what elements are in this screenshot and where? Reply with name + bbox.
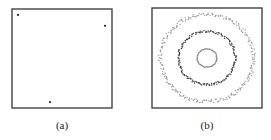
ring-point (180, 95, 181, 96)
ring-point (233, 23, 234, 24)
ring-point (252, 54, 253, 55)
panel-a-caption: (a) (42, 119, 82, 131)
ring-point (229, 41, 230, 42)
ring-point (252, 59, 253, 60)
ring-point (209, 31, 210, 32)
ring-point (176, 25, 177, 26)
ring-point (224, 36, 225, 37)
ring-point (186, 78, 187, 79)
ring-point (217, 101, 218, 102)
ring-point (166, 79, 167, 80)
ring-point (211, 99, 212, 100)
panel-a-frame (12, 9, 112, 108)
ring-point (177, 57, 178, 58)
ring-point (252, 56, 253, 57)
point-1 (17, 14, 19, 16)
ring-point (222, 15, 223, 16)
ring-point (185, 20, 186, 21)
ring-point (248, 75, 249, 76)
ring-point (178, 49, 179, 50)
ring-point (192, 33, 193, 34)
ring-point (244, 32, 245, 33)
ring-point (230, 18, 231, 19)
ring-point (181, 68, 182, 69)
ring-point (195, 32, 196, 33)
ring-point (199, 102, 200, 103)
ring-point (215, 33, 216, 34)
ring-point (164, 74, 165, 75)
figure (0, 0, 271, 140)
ring-point (175, 91, 176, 92)
ring-point (188, 16, 189, 17)
ring-point (232, 21, 233, 22)
ring-point (244, 82, 245, 83)
ring-point (253, 48, 254, 49)
ring-point (249, 72, 250, 73)
ring-point (162, 39, 163, 40)
ring-point (226, 75, 227, 76)
ring-point (216, 83, 217, 84)
ring-point (217, 81, 218, 82)
ring-point (170, 29, 171, 30)
ring-point (221, 81, 222, 82)
ring-point (253, 60, 254, 61)
ring-point (162, 47, 163, 48)
ring-point (193, 81, 194, 82)
panel-b-caption: (b) (187, 119, 227, 131)
ring-point (199, 32, 200, 33)
ring-point (222, 35, 223, 36)
point-3 (49, 101, 51, 103)
ring-point (182, 43, 183, 44)
ring-point (170, 32, 171, 33)
ring-point (166, 33, 167, 34)
ring-point (212, 14, 213, 15)
ring-point (195, 34, 196, 35)
ring-point (179, 52, 180, 53)
ring-point (229, 73, 230, 74)
ring-point (240, 89, 241, 90)
ring-point (193, 16, 194, 17)
ring-point (254, 55, 255, 56)
ring-point (212, 31, 213, 32)
ring-point (162, 71, 163, 72)
ring-point (251, 46, 252, 47)
ring-point (184, 42, 185, 43)
ring-point (166, 76, 167, 77)
ring-point (204, 15, 205, 16)
ring-point (177, 23, 178, 24)
ring-point (236, 92, 237, 93)
ring-point (243, 28, 244, 29)
ring-point (242, 85, 243, 86)
ring-point (240, 88, 241, 89)
ring-point (254, 61, 255, 62)
ring-point (235, 90, 236, 91)
ring-point (211, 66, 212, 67)
ring-point (203, 13, 204, 14)
ring-point (162, 46, 163, 47)
ring-point (192, 16, 193, 17)
ring-point (216, 57, 217, 58)
ring-point (161, 58, 162, 59)
ring-point (251, 75, 252, 76)
ring-point (216, 32, 217, 33)
panel-b-frame (152, 8, 262, 108)
ring-point (202, 102, 203, 103)
ring-point (204, 83, 205, 84)
ring-point (191, 81, 192, 82)
ring-point (196, 59, 197, 60)
ring-point (229, 43, 230, 44)
ring-point (185, 19, 186, 20)
ring-point (182, 44, 183, 45)
ring-point (254, 58, 255, 59)
ring-point (160, 50, 161, 51)
ring-point (244, 34, 245, 35)
ring-point (224, 99, 225, 100)
ring-point (172, 84, 173, 85)
ring-point (197, 31, 198, 32)
ring-point (206, 99, 207, 100)
ring-point (200, 83, 201, 84)
ring-point (235, 94, 236, 95)
ring-point (185, 17, 186, 18)
ring-point (163, 37, 164, 38)
ring-point (178, 21, 179, 22)
